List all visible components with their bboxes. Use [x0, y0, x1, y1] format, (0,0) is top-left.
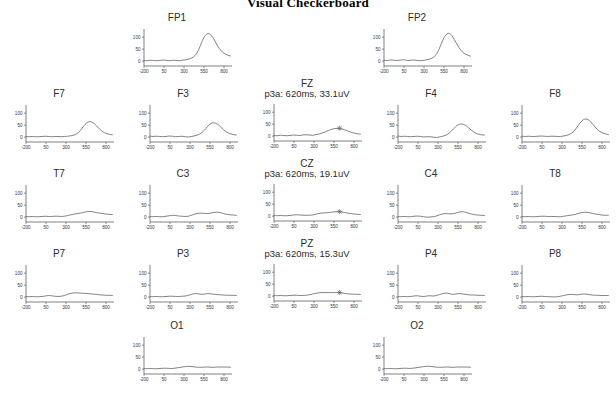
svg-text:0: 0 [20, 295, 23, 300]
svg-text:800: 800 [226, 145, 234, 150]
svg-text:0: 0 [138, 367, 141, 372]
svg-text:50: 50 [291, 224, 297, 229]
panel-title-f7: F7 [0, 88, 118, 99]
svg-text:-200: -200 [139, 377, 149, 382]
svg-text:50: 50 [539, 145, 545, 150]
svg-text:100: 100 [133, 35, 141, 40]
svg-text:-200: -200 [393, 225, 403, 230]
erp-panel-c3: C3050100-20050300550800 [124, 168, 242, 238]
svg-text:0: 0 [144, 215, 147, 220]
erp-panel-t8: T8050100-20050300550800 [496, 168, 614, 238]
svg-text:-200: -200 [21, 305, 31, 310]
svg-text:550: 550 [206, 305, 214, 310]
svg-text:550: 550 [206, 145, 214, 150]
svg-text:550: 550 [200, 69, 208, 74]
svg-text:50: 50 [43, 225, 49, 230]
panel-title-fp1: FP1 [118, 12, 236, 23]
p3a-annotation-pz: p3a: 620ms, 15.3uV [240, 248, 374, 259]
erp-plot-f4: 050100-20050300550800 [372, 101, 490, 153]
erp-plot-o1: 050100-20050300550800 [118, 333, 236, 385]
svg-text:800: 800 [350, 304, 358, 309]
svg-text:100: 100 [263, 270, 271, 275]
svg-text:550: 550 [330, 144, 338, 149]
svg-text:0: 0 [516, 295, 519, 300]
svg-text:800: 800 [598, 305, 606, 310]
panel-title-p4: P4 [372, 248, 490, 259]
p3a-annotation-fz: p3a: 620ms, 33.1uV [240, 88, 374, 99]
svg-text:100: 100 [133, 343, 141, 348]
svg-text:300: 300 [558, 145, 566, 150]
svg-text:-200: -200 [393, 145, 403, 150]
svg-text:50: 50 [401, 377, 407, 382]
svg-text:300: 300 [558, 225, 566, 230]
p3a-marker-pz [337, 290, 342, 295]
svg-text:-200: -200 [517, 145, 527, 150]
svg-text:800: 800 [350, 224, 358, 229]
erp-plot-p7: 050100-20050300550800 [0, 261, 118, 313]
svg-text:300: 300 [434, 225, 442, 230]
erp-plot-p8: 050100-20050300550800 [496, 261, 614, 313]
svg-text:100: 100 [387, 271, 395, 276]
svg-text:-200: -200 [145, 145, 155, 150]
svg-text:550: 550 [454, 225, 462, 230]
svg-text:550: 550 [82, 225, 90, 230]
erp-plot-t7: 050100-20050300550800 [0, 181, 118, 233]
svg-text:50: 50 [539, 225, 545, 230]
svg-text:300: 300 [310, 224, 318, 229]
erp-plot-t8: 050100-20050300550800 [496, 181, 614, 233]
svg-text:100: 100 [15, 111, 23, 116]
svg-text:800: 800 [226, 305, 234, 310]
svg-text:100: 100 [15, 191, 23, 196]
svg-text:-200: -200 [393, 305, 403, 310]
svg-text:550: 550 [330, 224, 338, 229]
svg-text:50: 50 [401, 69, 407, 74]
svg-text:-200: -200 [269, 304, 279, 309]
svg-text:300: 300 [62, 305, 70, 310]
svg-text:100: 100 [263, 190, 271, 195]
svg-text:100: 100 [263, 110, 271, 115]
svg-text:800: 800 [474, 145, 482, 150]
svg-text:50: 50 [389, 123, 395, 128]
svg-text:0: 0 [20, 215, 23, 220]
svg-text:300: 300 [180, 377, 188, 382]
svg-text:550: 550 [454, 305, 462, 310]
svg-text:800: 800 [474, 305, 482, 310]
panel-title-o2: O2 [358, 320, 476, 331]
svg-text:50: 50 [415, 305, 421, 310]
svg-text:550: 550 [578, 305, 586, 310]
svg-text:800: 800 [460, 377, 468, 382]
svg-text:100: 100 [373, 343, 381, 348]
svg-text:550: 550 [330, 304, 338, 309]
svg-text:50: 50 [167, 305, 173, 310]
svg-text:550: 550 [82, 145, 90, 150]
erp-panel-f4: F4050100-20050300550800 [372, 88, 490, 158]
svg-text:50: 50 [291, 144, 297, 149]
erp-figure: Visual Checkerboard FP1050100-2005030055… [0, 0, 616, 398]
svg-text:100: 100 [387, 111, 395, 116]
svg-text:100: 100 [139, 271, 147, 276]
svg-text:0: 0 [268, 214, 271, 219]
svg-text:50: 50 [265, 122, 271, 127]
svg-text:50: 50 [389, 283, 395, 288]
svg-text:100: 100 [373, 35, 381, 40]
svg-text:50: 50 [513, 203, 519, 208]
erp-panel-f8: F8050100-20050300550800 [496, 88, 614, 158]
svg-text:50: 50 [17, 123, 23, 128]
svg-text:0: 0 [144, 135, 147, 140]
svg-text:550: 550 [454, 145, 462, 150]
svg-text:-200: -200 [21, 145, 31, 150]
svg-text:50: 50 [167, 225, 173, 230]
svg-text:0: 0 [138, 59, 141, 64]
erp-plot-cz: 050100-20050300550800 [248, 180, 366, 232]
erp-plot-f3: 050100-20050300550800 [124, 101, 242, 153]
svg-text:50: 50 [17, 283, 23, 288]
erp-panel-p4: P4050100-20050300550800 [372, 248, 490, 318]
svg-text:50: 50 [389, 203, 395, 208]
panel-title-c3: C3 [124, 168, 242, 179]
svg-text:100: 100 [511, 271, 519, 276]
svg-text:800: 800 [598, 225, 606, 230]
svg-text:100: 100 [15, 271, 23, 276]
panel-title-o1: O1 [118, 320, 236, 331]
erp-panel-p7: P7050100-20050300550800 [0, 248, 118, 318]
erp-plot-fp2: 050100-20050300550800 [358, 25, 476, 77]
